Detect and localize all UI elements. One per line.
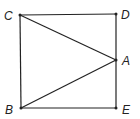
point-D <box>115 13 118 16</box>
label-D: D <box>121 8 130 22</box>
label-C: C <box>4 9 13 23</box>
label-E: E <box>122 103 131 117</box>
label-A: A <box>121 54 130 68</box>
segment-CA <box>20 15 116 60</box>
label-B: B <box>5 103 13 117</box>
point-B <box>20 107 23 110</box>
segment-CD <box>20 14 116 15</box>
segment-BA <box>21 60 116 108</box>
point-C <box>19 14 22 17</box>
geometry-diagram: C D A B E <box>0 0 140 119</box>
point-E <box>115 107 118 110</box>
point-A <box>115 59 118 62</box>
segment-BC <box>20 15 21 108</box>
